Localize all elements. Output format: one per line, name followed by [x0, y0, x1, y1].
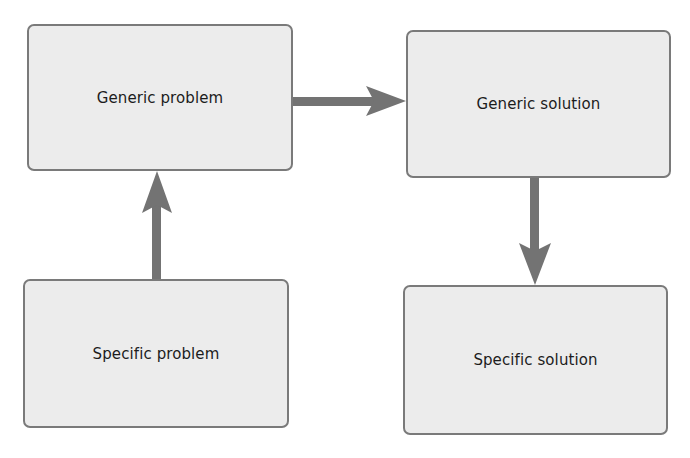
arrow-generic-problem-to-generic-solution — [292, 86, 406, 116]
node-generic-solution: Generic solution — [406, 30, 671, 178]
node-specific-solution: Specific solution — [403, 285, 668, 435]
node-label: Specific problem — [93, 345, 220, 363]
node-label: Generic solution — [477, 95, 601, 113]
arrow-generic-solution-to-specific-solution — [519, 178, 551, 285]
node-specific-problem: Specific problem — [23, 279, 289, 428]
node-generic-problem: Generic problem — [27, 24, 293, 171]
arrow-specific-problem-to-generic-problem — [142, 171, 172, 280]
node-label: Generic problem — [97, 89, 224, 107]
node-label: Specific solution — [473, 351, 597, 369]
